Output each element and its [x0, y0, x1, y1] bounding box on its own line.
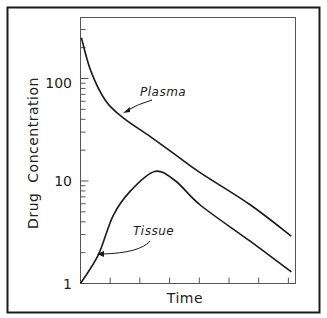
plasma-curve — [81, 38, 291, 236]
y-axis-label: Drug Concentration — [25, 77, 41, 229]
x-axis-label: Time — [166, 290, 203, 306]
plasma-label: Plasma — [140, 85, 186, 99]
x-axis-ticks — [110, 278, 288, 284]
tissue-label: Tissue — [133, 224, 174, 238]
tissue-curve — [81, 171, 292, 283]
outer-frame — [8, 8, 320, 313]
y-tick-label-1: 1 — [63, 276, 72, 292]
y-axis-ticks — [81, 30, 89, 284]
y-tick-label-100: 100 — [45, 75, 72, 91]
drug-concentration-chart: 100 10 1 Drug Concentration Time Plasma … — [0, 0, 327, 318]
tissue-arrow — [102, 241, 150, 254]
y-tick-label-10: 10 — [54, 173, 72, 189]
plot-area — [81, 18, 296, 284]
plasma-arrowhead-icon — [123, 107, 130, 113]
